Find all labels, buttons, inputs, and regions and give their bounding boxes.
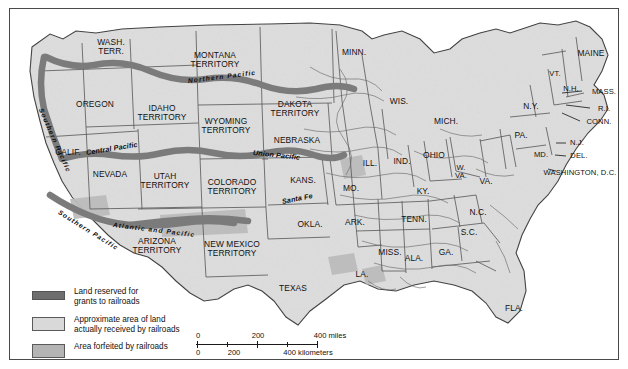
scale-bar-ruler [196,341,356,348]
railroad-land-grant-map: WASH. TERR.OREGONCALIF.NEVADAIDAHO TERRI… [0,0,628,369]
map-frame: WASH. TERR.OREGONCALIF.NEVADAIDAHO TERRI… [9,8,619,360]
legend-label-land-received: Approximate area of land actually receiv… [74,315,180,336]
legend-label-land-reserved: Land reserved for grants to railroads [74,287,140,308]
scale-bar-miles-labels: 0 200 400 miles [196,331,356,341]
legend-item-land-reserved: Land reserved for grants to railroads [32,287,242,308]
legend-label-forfeited: Area forfeited by railroads [74,342,168,352]
legend-swatch-forfeited [32,342,65,358]
legend-swatch-land-received [32,315,65,331]
scale-bar: 0 200 400 miles 0 200 400 kilometers [196,331,356,358]
legend-swatch-land-reserved [32,287,65,300]
scale-bar-km-labels: 0 200 400 kilometers [196,348,356,358]
